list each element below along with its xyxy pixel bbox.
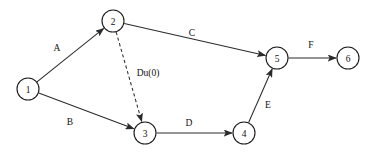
node-4: 4 [233,122,255,144]
edge-e [249,69,273,123]
edge-label-e: E [265,100,271,110]
node-label-3: 3 [143,129,148,139]
edge-label-f: F [308,40,313,50]
edges-layer [37,24,336,133]
edge-label-b: B [67,117,73,127]
node-6: 6 [337,47,359,69]
edge-label-a: A [54,43,61,53]
node-label-1: 1 [26,85,31,95]
node-label-2: 2 [111,17,116,27]
edge-label-c: C [189,28,195,38]
aoe-network-diagram: ABCDu(0)DEF 123456 [0,0,380,154]
edge-b [39,93,134,129]
node-label-4: 4 [242,129,247,139]
node-5: 5 [266,47,288,69]
node-2: 2 [102,10,124,32]
node-label-6: 6 [346,54,351,64]
edge-a [37,28,104,81]
edge-label-du-0: Du(0) [137,68,160,79]
node-3: 3 [134,122,156,144]
graph-canvas: ABCDu(0)DEF 123456 [0,0,380,154]
node-1: 1 [17,78,39,100]
edge-label-d: D [186,118,193,128]
node-label-5: 5 [275,54,280,64]
